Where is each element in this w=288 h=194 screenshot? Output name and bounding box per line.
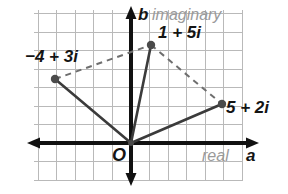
point-label-1-plus-5i: 1 + 5i bbox=[158, 24, 201, 41]
imaginary-axis-letter-label: b bbox=[138, 6, 148, 23]
origin-label: O bbox=[112, 146, 126, 164]
point-origin bbox=[128, 140, 134, 146]
vector-to-1-plus-5i bbox=[131, 45, 151, 143]
complex-plane-canvas bbox=[0, 0, 288, 194]
point-label-neg4-plus-3i: −4 + 3i bbox=[25, 48, 78, 65]
dashed-edges bbox=[55, 45, 222, 104]
complex-plane-figure: −4 + 3i 1 + 5i 5 + 2i O b imaginary real… bbox=[0, 0, 288, 194]
axis-imaginary bbox=[126, 6, 137, 186]
point-5-plus-2i bbox=[218, 100, 226, 108]
real-axis-letter-label: a bbox=[246, 147, 255, 164]
point-1-plus-5i bbox=[147, 41, 155, 49]
imaginary-axis-word-label: imaginary bbox=[152, 7, 221, 23]
real-axis-word-label: real bbox=[202, 148, 229, 164]
point-label-5-plus-2i: 5 + 2i bbox=[226, 99, 269, 116]
vectors-from-origin bbox=[55, 45, 222, 143]
vector-to-5-plus-2i bbox=[131, 104, 222, 143]
point-neg4-plus-3i bbox=[51, 75, 59, 83]
